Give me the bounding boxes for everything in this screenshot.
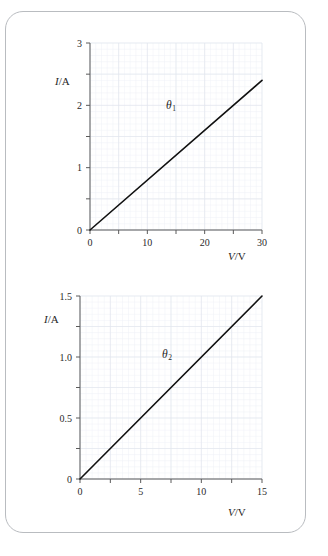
x-axis-unit-chart2: V [238, 506, 246, 518]
x-axis-tick-label: 10 [196, 486, 206, 497]
x-axis-tick-label: 30 [257, 237, 267, 248]
annotation-theta-1: θ1 [166, 100, 175, 112]
x-axis-symbol-chart1: V [228, 250, 235, 262]
theta-subscript-2: 2 [168, 353, 172, 362]
x-axis-tick-label: 0 [88, 237, 93, 248]
y-axis-label-chart2: I/A [44, 314, 59, 325]
figure-page: 01020300123 I/A V/V θ1 05101500.51.01.5 … [0, 0, 328, 556]
y-axis-tick-label: 1.0 [60, 352, 73, 363]
x-axis-tick-label: 0 [78, 486, 83, 497]
theta-symbol-1: θ [166, 99, 172, 111]
y-axis-tick-label: 0.5 [60, 413, 73, 424]
y-axis-tick-label: 3 [77, 38, 82, 49]
x-axis-symbol-chart2: V [228, 506, 235, 518]
chart-theta-1: 01020300123 I/A V/V θ1 [0, 24, 328, 269]
y-axis-tick-label: 2 [77, 100, 82, 111]
chart-theta-1-canvas: 01020300123 [0, 24, 328, 269]
y-axis-unit-chart2: A [51, 313, 59, 325]
x-axis-tick-label: 10 [142, 237, 152, 248]
x-axis-unit-chart1: V [238, 250, 246, 262]
y-axis-tick-label: 1 [77, 162, 82, 173]
theta-symbol-2: θ [162, 348, 168, 360]
x-axis-tick-label: 20 [200, 237, 210, 248]
x-axis-label-chart1: V/V [228, 251, 246, 262]
y-axis-tick-label: 0 [67, 474, 72, 485]
x-axis-tick-label: 5 [138, 486, 143, 497]
y-axis-label-chart1: I/A [55, 76, 70, 87]
chart-theta-2: 05101500.51.01.5 I/A V/V θ2 [0, 283, 328, 528]
x-axis-tick-label: 15 [257, 486, 267, 497]
y-axis-tick-label: 1.5 [60, 291, 73, 302]
annotation-theta-2: θ2 [162, 349, 171, 361]
theta-subscript-1: 1 [172, 104, 176, 113]
y-axis-unit-chart1: A [62, 75, 70, 87]
y-axis-tick-label: 0 [77, 225, 82, 236]
x-axis-label-chart2: V/V [228, 507, 246, 518]
